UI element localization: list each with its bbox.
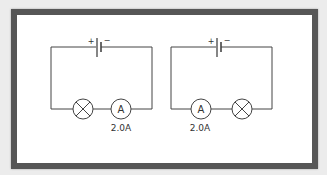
ammeter-icon: A — [191, 99, 211, 119]
ammeter-reading: 2.0A — [190, 123, 211, 133]
ammeter-symbol: A — [198, 104, 205, 115]
battery-positive-label: + — [208, 37, 215, 46]
circuit-right: + − A 2.0A — [171, 36, 272, 133]
battery-cell-icon — [217, 38, 221, 57]
ammeter-symbol: A — [118, 104, 125, 115]
lamp-icon — [232, 99, 252, 119]
battery-negative-label: − — [104, 36, 111, 45]
lamp-icon — [73, 99, 93, 119]
ammeter-reading: 2.0A — [111, 123, 132, 133]
battery-cell-icon — [97, 38, 101, 57]
ammeter-icon: A — [111, 99, 131, 119]
circuit-left: + − A 2.0A — [51, 36, 152, 133]
battery-negative-label: − — [224, 36, 231, 45]
circuit-diagram: + − A 2.0A + − A 2.0A — [0, 0, 327, 175]
battery-positive-label: + — [88, 37, 95, 46]
